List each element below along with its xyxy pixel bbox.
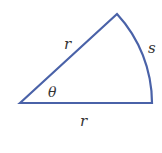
- arc-length-label: s: [148, 39, 156, 57]
- radius-label-lower: r: [80, 112, 88, 130]
- sector-diagram: r s θ r: [0, 0, 162, 153]
- angle-label: θ: [48, 84, 57, 100]
- radius-label-upper: r: [64, 35, 72, 53]
- sector-outline: [20, 14, 152, 103]
